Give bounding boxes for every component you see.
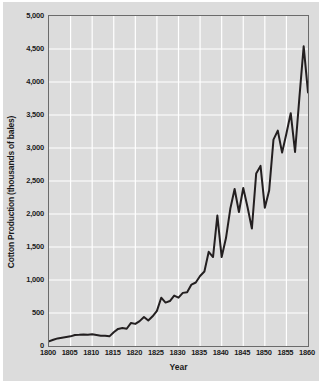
y-tick-label: 4,000 <box>0 77 44 86</box>
x-tick-label: 1830 <box>170 348 186 357</box>
y-tick-label: 4,500 <box>0 44 44 53</box>
y-tick-label: 3,000 <box>0 143 44 152</box>
x-tick-label: 1805 <box>62 348 78 357</box>
y-axis-tick-labels: 05001,0001,5002,0002,5003,0003,5004,0004… <box>0 15 44 345</box>
y-tick-label: 0 <box>0 341 44 350</box>
plot-area <box>48 15 309 347</box>
y-tick-label: 2,000 <box>0 209 44 218</box>
y-tick-label: 5,000 <box>0 11 44 20</box>
y-tick-label: 1,000 <box>0 275 44 284</box>
x-tick-label: 1810 <box>83 348 99 357</box>
x-axis-tick-labels: 1800180518101815182018251830183518401845… <box>48 348 309 360</box>
chart-page: Cotton Production (thousands of bales) 0… <box>0 0 322 384</box>
y-tick-label: 1,500 <box>0 242 44 251</box>
cotton-production-line-series <box>49 16 308 346</box>
x-axis-title: Year <box>48 362 309 372</box>
x-tick-label: 1800 <box>40 348 56 357</box>
y-tick-label: 2,500 <box>0 176 44 185</box>
x-tick-label: 1840 <box>213 348 229 357</box>
y-tick-label: 3,500 <box>0 110 44 119</box>
x-tick-label: 1820 <box>126 348 142 357</box>
x-tick-label: 1855 <box>277 348 293 357</box>
y-tick-label: 500 <box>0 308 44 317</box>
series-line <box>49 46 308 341</box>
x-tick-label: 1815 <box>105 348 121 357</box>
x-tick-label: 1825 <box>148 348 164 357</box>
x-tick-label: 1860 <box>299 348 315 357</box>
x-tick-label: 1835 <box>191 348 207 357</box>
x-tick-label: 1845 <box>234 348 250 357</box>
x-tick-label: 1850 <box>256 348 272 357</box>
